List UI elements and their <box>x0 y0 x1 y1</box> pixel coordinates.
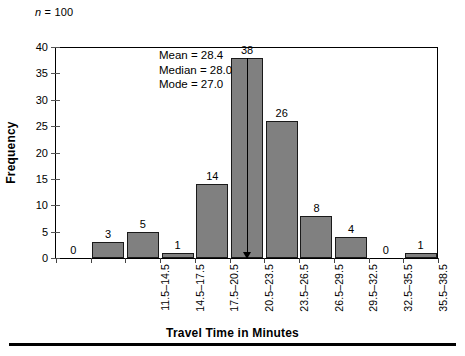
y-axis-tick-label: 15 <box>36 173 48 185</box>
bar-value-label: 0 <box>51 244 95 256</box>
histogram-bar <box>300 216 332 258</box>
histogram-bar <box>162 253 194 258</box>
y-axis-tick-label: 0 <box>42 252 48 264</box>
histogram-bar <box>196 184 228 258</box>
bar-value-label: 1 <box>156 239 200 251</box>
sample-size-note: n = 100 <box>35 6 73 18</box>
footer-divider <box>9 343 456 346</box>
plot-right-border <box>437 47 438 258</box>
y-axis-tick-label: 10 <box>36 199 48 211</box>
x-axis-tick <box>195 258 196 263</box>
y-axis-tick <box>51 100 60 101</box>
x-axis-tick <box>369 258 370 263</box>
y-axis-tick-label: 30 <box>36 94 48 106</box>
y-axis-tick-label: 40 <box>36 41 48 53</box>
y-axis-title: Frequency <box>4 47 18 258</box>
x-axis-tick <box>403 258 404 263</box>
x-axis-tick <box>160 258 161 263</box>
x-axis-tick <box>334 258 335 263</box>
x-axis-tick <box>230 258 231 263</box>
y-axis-tick <box>51 179 60 180</box>
bar-value-label: 14 <box>190 170 234 182</box>
x-axis-tick <box>91 258 92 263</box>
y-axis-tick <box>51 153 60 154</box>
x-axis-tick <box>438 258 439 263</box>
histogram-bar <box>266 121 298 258</box>
histogram-bar <box>127 232 159 258</box>
y-axis-tick-label: 35 <box>36 67 48 79</box>
down-arrow-icon <box>242 58 253 258</box>
bar-value-label: 1 <box>399 239 443 251</box>
y-axis-tick <box>51 73 60 74</box>
y-axis-tick <box>51 205 60 206</box>
y-axis-tick <box>51 126 60 127</box>
y-axis-tick <box>51 47 60 48</box>
bar-value-label: 3 <box>86 228 130 240</box>
x-axis-tick <box>125 258 126 263</box>
x-axis-tick <box>56 258 57 263</box>
y-axis-tick <box>51 232 60 233</box>
histogram-bar <box>335 237 367 258</box>
y-axis-tick-label: 25 <box>36 120 48 132</box>
sample-size-value: = 100 <box>41 6 73 18</box>
statistic-line: Median = 28.0 <box>159 63 232 78</box>
bar-value-label: 26 <box>260 107 304 119</box>
statistics-annotation: Mean = 28.4Median = 28.0Mode = 27.0 <box>159 48 232 92</box>
y-axis-tick-label: 5 <box>42 226 48 238</box>
histogram-bar <box>92 242 124 258</box>
statistic-line: Mean = 28.4 <box>159 48 232 63</box>
statistic-line: Mode = 27.0 <box>159 77 232 92</box>
x-axis-tick <box>264 258 265 263</box>
x-axis-tick <box>299 258 300 263</box>
histogram-bar <box>405 253 437 258</box>
bar-value-label: 5 <box>121 218 165 230</box>
x-axis-title: Travel Time in Minutes <box>0 326 465 340</box>
plot-area: 0510152025303540 03511438268401 <box>55 47 438 258</box>
y-axis-tick-label: 20 <box>36 147 48 159</box>
bar-value-label: 4 <box>329 223 373 235</box>
bar-value-label: 8 <box>294 202 338 214</box>
